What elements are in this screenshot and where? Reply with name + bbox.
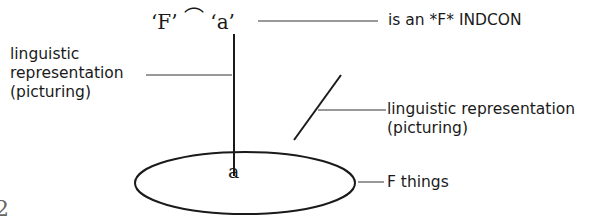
page-number-fragment: 2 [0, 196, 9, 219]
left-rep-line3: (picturing) [10, 83, 124, 102]
left-representation-label: linguistic representation (picturing) [10, 45, 124, 102]
top-expression: ‘F’ ⌒ ‘a’ [151, 6, 235, 35]
element-a: a [228, 160, 239, 182]
right-representation-label: linguistic representation (picturing) [387, 100, 575, 138]
right-rep-line1: linguistic representation [387, 100, 575, 119]
f-things-ellipse [135, 152, 355, 214]
diagonal-representation-line [294, 75, 341, 140]
right-rep-line2: (picturing) [387, 119, 575, 138]
concatenation-icon: ⌒ [184, 6, 204, 30]
f-quoted: ‘F’ [151, 10, 178, 34]
left-rep-line2: representation [10, 64, 124, 83]
f-things-label: F things [387, 173, 449, 192]
left-rep-line1: linguistic [10, 45, 124, 64]
diagram-canvas: ‘F’ ⌒ ‘a’ is an *F* INDCON linguistic re… [0, 0, 608, 219]
a-quoted: ‘a’ [210, 10, 235, 34]
indcon-label: is an *F* INDCON [388, 11, 522, 30]
